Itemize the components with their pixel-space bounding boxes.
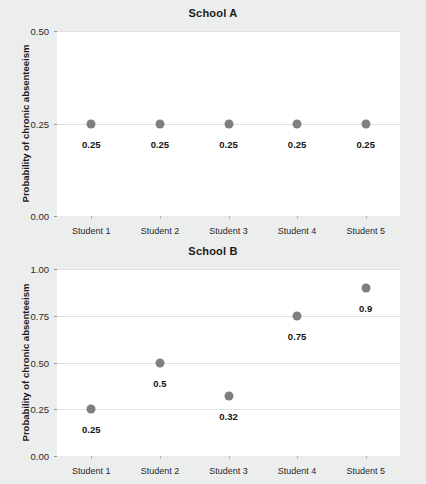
data-point-label: 0.25 bbox=[82, 424, 101, 435]
facet-school-a: School A Probability of chronic absentee… bbox=[0, 0, 426, 242]
facet-school-b: School B Probability of chronic absentee… bbox=[0, 242, 426, 484]
data-point bbox=[155, 358, 164, 367]
x-axis-tick-mark bbox=[229, 216, 230, 219]
data-point-label: 0.5 bbox=[153, 378, 166, 389]
y-axis-tick-label: 0.00 bbox=[1, 211, 49, 222]
x-axis-tick-label: Student 2 bbox=[141, 466, 180, 476]
y-axis-tick-mark bbox=[54, 269, 57, 270]
x-axis-tick-label: Student 1 bbox=[72, 226, 111, 236]
y-axis-tick-mark bbox=[54, 363, 57, 364]
data-point bbox=[224, 119, 233, 128]
data-point bbox=[155, 119, 164, 128]
data-point bbox=[361, 283, 370, 292]
data-point bbox=[87, 119, 96, 128]
y-axis-tick-label: 0.25 bbox=[1, 118, 49, 129]
facet-title-school-a: School A bbox=[0, 7, 426, 19]
x-axis-tick-mark bbox=[297, 456, 298, 459]
data-point-label: 0.25 bbox=[151, 139, 170, 150]
facet-title-school-b: School B bbox=[0, 245, 426, 257]
data-point-label: 0.9 bbox=[359, 303, 372, 314]
y-axis-tick-label: 1.00 bbox=[1, 264, 49, 275]
y-axis-tick-mark bbox=[54, 31, 57, 32]
data-point-label: 0.25 bbox=[82, 139, 101, 150]
data-point bbox=[293, 119, 302, 128]
plot-panel-school-b bbox=[57, 269, 400, 456]
y-axis-tick-mark bbox=[54, 316, 57, 317]
x-axis-tick-label: Student 3 bbox=[209, 226, 248, 236]
x-axis-tick-label: Student 5 bbox=[346, 466, 385, 476]
data-point-label: 0.25 bbox=[356, 139, 375, 150]
x-axis-tick-label: Student 2 bbox=[141, 226, 180, 236]
x-axis-tick-label: Student 1 bbox=[72, 466, 111, 476]
data-point-label: 0.75 bbox=[288, 331, 307, 342]
data-point bbox=[87, 405, 96, 414]
data-point-label: 0.25 bbox=[288, 139, 307, 150]
y-axis-tick-label: 0.25 bbox=[1, 404, 49, 415]
data-point bbox=[361, 119, 370, 128]
x-axis-tick-mark bbox=[160, 216, 161, 219]
data-point-label: 0.25 bbox=[219, 139, 238, 150]
plot-panel-school-a bbox=[57, 31, 400, 216]
gridline bbox=[57, 409, 400, 410]
y-axis-tick-mark bbox=[54, 456, 57, 457]
figure-canvas: School A Probability of chronic absentee… bbox=[0, 0, 426, 484]
x-axis-tick-mark bbox=[366, 456, 367, 459]
gridline bbox=[57, 31, 400, 32]
x-axis-tick-label: Student 4 bbox=[278, 466, 317, 476]
y-axis-tick-mark bbox=[54, 216, 57, 217]
x-axis-tick-mark bbox=[229, 456, 230, 459]
y-axis-tick-mark bbox=[54, 409, 57, 410]
gridline bbox=[57, 269, 400, 270]
x-axis-tick-mark bbox=[160, 456, 161, 459]
x-axis-tick-label: Student 5 bbox=[346, 226, 385, 236]
x-axis-tick-mark bbox=[91, 456, 92, 459]
y-axis-tick-label: 0.00 bbox=[1, 451, 49, 462]
data-point bbox=[224, 392, 233, 401]
y-axis-tick-label: 0.75 bbox=[1, 310, 49, 321]
gridline bbox=[57, 316, 400, 317]
x-axis-tick-label: Student 4 bbox=[278, 226, 317, 236]
y-axis-tick-mark bbox=[54, 124, 57, 125]
x-axis-tick-mark bbox=[366, 216, 367, 219]
data-point-label: 0.32 bbox=[219, 411, 238, 422]
x-axis-tick-mark bbox=[91, 216, 92, 219]
x-axis-tick-label: Student 3 bbox=[209, 466, 248, 476]
gridline bbox=[57, 363, 400, 364]
x-axis-tick-mark bbox=[297, 216, 298, 219]
y-axis-tick-label: 0.50 bbox=[1, 26, 49, 37]
data-point bbox=[293, 311, 302, 320]
y-axis-tick-label: 0.50 bbox=[1, 357, 49, 368]
